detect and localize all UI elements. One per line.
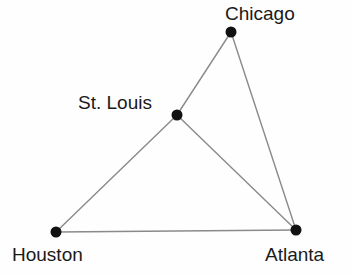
city-network-diagram: ChicagoSt. LouisHoustonAtlanta — [0, 0, 351, 275]
graph-node-chicago[interactable] — [226, 27, 237, 38]
graph-edge-st-louis-atlanta — [177, 115, 296, 230]
node-label-houston: Houston — [12, 245, 83, 264]
graph-canvas — [0, 0, 351, 275]
node-label-chicago: Chicago — [225, 4, 295, 23]
node-label-atlanta: Atlanta — [265, 245, 324, 264]
node-label-st-louis: St. Louis — [78, 93, 152, 112]
edge-layer — [56, 32, 296, 232]
graph-edge-chicago-atlanta — [231, 32, 296, 230]
graph-edge-chicago-st-louis — [177, 32, 231, 115]
graph-node-atlanta[interactable] — [291, 225, 302, 236]
graph-node-st-louis[interactable] — [172, 110, 183, 121]
graph-node-houston[interactable] — [51, 227, 62, 238]
graph-edge-st-louis-houston — [56, 115, 177, 232]
graph-edge-houston-atlanta — [56, 230, 296, 232]
